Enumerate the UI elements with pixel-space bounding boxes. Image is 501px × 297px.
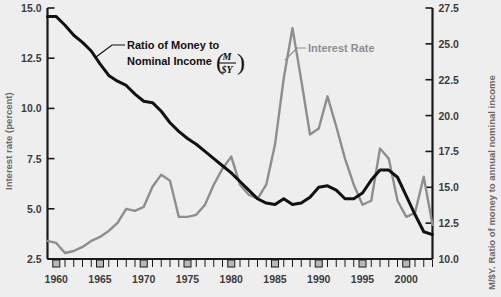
money-fraction-numerator: M [222,51,233,62]
left-tick-label: 10.0 [21,102,42,114]
x-axis-label: 1975 [176,273,200,285]
left-tick-label: 12.5 [21,52,42,64]
left-tick-label: 5.0 [27,203,42,215]
right-axis-title: M/$Y. Ratio of money to annual nominal i… [486,75,497,290]
x-axis-label: 1985 [263,273,287,285]
x-axis-label: 1965 [88,273,112,285]
right-tick-label: 17.5 [439,145,460,157]
right-tick-label: 20.0 [439,110,460,122]
left-tick-label: 15.0 [21,2,42,14]
money-fraction-close-paren: ) [237,49,245,75]
x-axis-labels: 196019651970197519801985199019952000 [45,273,419,285]
x-tick-major [184,260,191,267]
x-tick-major [97,260,104,267]
x-tick-major [228,260,235,267]
money-label-line1: Ratio of Money to [127,39,220,51]
x-tick-major [272,260,279,267]
x-tick-major [140,260,147,267]
right-tick-label: 12.5 [439,217,460,229]
right-tick-label: 22.5 [439,74,460,86]
chart-container: 15.012.510.07.55.02.5 27.525.022.520.017… [0,0,501,297]
x-axis-label: 2000 [395,273,419,285]
right-tick-label: 27.5 [439,2,460,14]
x-tick-major [359,260,366,267]
x-axis-label: 1970 [132,273,156,285]
left-axis-title: Interest rate (percent) [3,92,14,190]
left-tick-label: 7.5 [27,153,42,165]
money-fraction-denominator: $Y [220,64,233,75]
right-tick-label: 15.0 [439,181,460,193]
x-axis-label: 1995 [351,273,375,285]
x-axis-label: 1990 [307,273,331,285]
money-label-line2: Nominal Income [127,55,212,67]
chart-svg: 15.012.510.07.55.02.5 27.525.022.520.017… [0,0,501,297]
left-tick-label: 2.5 [27,253,42,265]
x-tick-major [315,260,322,267]
x-axis-label: 1980 [220,273,244,285]
x-axis-label: 1960 [45,273,69,285]
x-tick-major [53,260,60,267]
interest-label: Interest Rate [308,42,375,54]
right-tick-label: 25.0 [439,38,460,50]
right-tick-label: 10.0 [439,253,460,265]
x-tick-major [403,260,410,267]
